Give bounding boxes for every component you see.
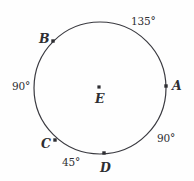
arc-label-cd: 45° <box>62 157 80 168</box>
point-label-b: B <box>39 33 50 46</box>
arc-label-bc: 90° <box>12 81 30 92</box>
point-label-a: A <box>172 80 182 93</box>
point-marker-b <box>51 39 54 42</box>
center-point-marker <box>97 85 100 88</box>
point-marker-a <box>164 84 167 87</box>
point-marker-d <box>102 151 105 154</box>
point-label-c: C <box>41 138 51 151</box>
point-marker-c <box>53 138 56 141</box>
arc-label-ab: 135° <box>131 16 156 27</box>
circle-diagram: E A B C D 135° 90° 45° 90° <box>0 0 194 181</box>
arc-label-da: 90° <box>157 133 175 144</box>
point-label-d: D <box>100 162 111 175</box>
center-point-label: E <box>95 93 105 106</box>
